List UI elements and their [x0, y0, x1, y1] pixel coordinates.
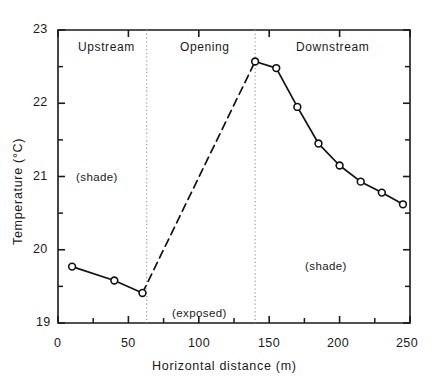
annotation-exposed-opening: (exposed) [172, 308, 227, 320]
x-tick-label-50: 50 [121, 337, 136, 350]
x-tick-label-250: 250 [396, 337, 418, 350]
x-axis-title: Horizontal distance (m) [152, 360, 297, 373]
data-point-marker[interactable] [336, 162, 343, 169]
data-point-marker[interactable] [111, 277, 118, 284]
y-tick-label-19: 19 [36, 316, 51, 329]
region-label-upstream: Upstream [78, 41, 135, 53]
region-label-downstream: Downstream [296, 41, 369, 53]
x-tick-label-0: 0 [54, 337, 61, 350]
data-point-marker[interactable] [357, 178, 364, 185]
series-line-opening-exposed-reach [142, 62, 255, 293]
data-point-marker[interactable] [378, 189, 385, 196]
x-tick-label-150: 150 [258, 337, 280, 350]
data-point-marker[interactable] [294, 104, 301, 111]
y-tick-label-20: 20 [33, 243, 48, 256]
y-tick-label-23: 23 [33, 23, 48, 36]
series-line-upstream-shaded-reach [72, 267, 142, 293]
annotation-shade-downstream: (shade) [305, 261, 347, 273]
x-tick-label-100: 100 [188, 337, 210, 350]
data-point-marker[interactable] [69, 263, 76, 270]
y-tick-label-22: 22 [33, 96, 48, 109]
plot-canvas [0, 0, 432, 379]
region-label-opening: Opening [180, 41, 230, 53]
annotation-shade-upstream: (shade) [76, 172, 118, 184]
y-axis-title: Temperature (°C) [12, 138, 25, 245]
data-point-marker[interactable] [273, 65, 280, 72]
y-tick-label-21: 21 [33, 170, 48, 183]
series-line-downstream-shaded-reach [255, 62, 403, 205]
x-tick-label-200: 200 [327, 337, 349, 350]
temperature-vs-distance-chart: 23 22 21 20 19 0 50 100 150 200 250 Hori… [0, 0, 432, 379]
data-point-marker[interactable] [252, 58, 259, 65]
data-point-marker[interactable] [315, 140, 322, 147]
data-point-marker[interactable] [400, 201, 407, 208]
data-point-marker[interactable] [139, 290, 146, 297]
